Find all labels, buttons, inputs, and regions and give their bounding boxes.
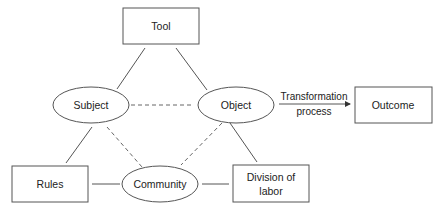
- edge-object-division: [230, 123, 257, 162]
- tool-label: Tool: [151, 20, 170, 32]
- node-subject: Subject: [53, 87, 129, 123]
- activity-system-diagram: Transformation process Tool Subject Obje…: [0, 0, 440, 216]
- node-tool: Tool: [123, 8, 199, 44]
- edge-subject-community: [107, 127, 142, 167]
- edge-tool-subject: [117, 48, 145, 89]
- node-rules: Rules: [12, 166, 88, 202]
- transformation-label-line1: Transformation: [281, 91, 348, 102]
- node-object: Object: [198, 87, 274, 123]
- outcome-label: Outcome: [372, 99, 415, 111]
- division-label-line1: Division of: [247, 171, 296, 183]
- node-outcome: Outcome: [355, 87, 432, 123]
- rules-label: Rules: [37, 178, 64, 190]
- node-division-of-labor: Division of labor: [233, 165, 309, 202]
- edge-object-community: [181, 123, 222, 165]
- division-label-line2: labor: [259, 185, 283, 197]
- subject-label: Subject: [73, 99, 108, 111]
- edge-subject-rules: [66, 127, 92, 163]
- node-community: Community: [122, 166, 198, 202]
- object-label: Object: [221, 99, 251, 111]
- community-label: Community: [133, 178, 187, 190]
- edge-tool-object: [176, 48, 207, 90]
- transformation-label-line2: process: [296, 106, 331, 117]
